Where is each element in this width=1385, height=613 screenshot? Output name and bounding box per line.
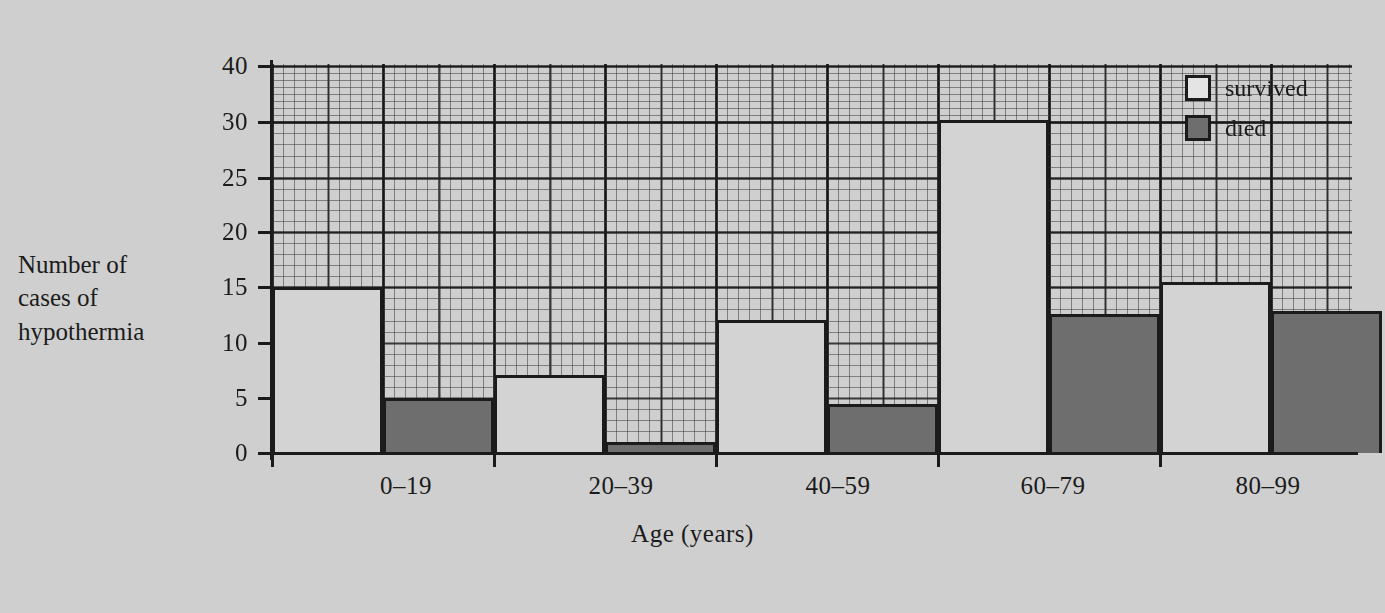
x-axis-title: Age (years) bbox=[0, 520, 1385, 548]
x-tick-label-40–59: 40–59 bbox=[738, 473, 938, 498]
y-tick-mark-30 bbox=[258, 121, 272, 124]
bar-60-79-died bbox=[1049, 314, 1160, 453]
x-tick-mark-1 bbox=[493, 453, 496, 467]
y-axis-title: Number of cases of hypothermia bbox=[18, 248, 208, 348]
bar-60-79-survived bbox=[938, 120, 1049, 453]
y-tick-label-40: 40 bbox=[188, 53, 248, 78]
y-tick-mark-15 bbox=[258, 286, 272, 289]
y-tick-label-0: 0 bbox=[188, 440, 248, 465]
y-tick-label-25: 25 bbox=[188, 165, 248, 190]
chart-figure: Number of cases of hypothermia 403025201… bbox=[0, 0, 1385, 613]
y-tick-label-15: 15 bbox=[188, 274, 248, 299]
x-tick-label-0–19: 0–19 bbox=[306, 473, 506, 498]
bar-40-59-survived bbox=[716, 320, 827, 453]
x-tick-mark-3 bbox=[937, 453, 940, 467]
y-tick-mark-25 bbox=[258, 177, 272, 180]
y-tick-label-20: 20 bbox=[188, 219, 248, 244]
bar-0-19-died bbox=[383, 398, 494, 453]
legend-swatch-died-icon bbox=[1185, 115, 1211, 141]
bar-20-39-survived bbox=[494, 375, 605, 453]
bar-40-59-died bbox=[827, 404, 938, 453]
y-tick-mark-10 bbox=[258, 342, 272, 345]
x-axis-line bbox=[268, 452, 1358, 455]
y-tick-label-10: 10 bbox=[188, 330, 248, 355]
legend: survived died bbox=[1185, 70, 1360, 150]
x-tick-mark-0 bbox=[271, 453, 274, 467]
bar-80-99-died bbox=[1271, 311, 1382, 453]
bar-0-19-survived bbox=[272, 287, 383, 453]
y-axis-title-line-2: cases of bbox=[18, 281, 208, 314]
y-tick-mark-5 bbox=[258, 397, 272, 400]
x-tick-mark-2 bbox=[715, 453, 718, 467]
legend-swatch-survived-icon bbox=[1185, 75, 1211, 101]
x-tick-mark-4 bbox=[1159, 453, 1162, 467]
y-tick-label-30: 30 bbox=[188, 109, 248, 134]
y-tick-mark-0 bbox=[258, 452, 272, 455]
y-axis-line bbox=[270, 60, 273, 460]
y-tick-label-5: 5 bbox=[188, 385, 248, 410]
bar-80-79-survived bbox=[1160, 282, 1271, 453]
x-tick-label-60–79: 60–79 bbox=[953, 473, 1153, 498]
x-tick-label-80–99: 80–99 bbox=[1168, 473, 1368, 498]
y-tick-mark-40 bbox=[258, 65, 272, 68]
y-axis-title-line-3: hypothermia bbox=[18, 315, 208, 348]
y-axis-title-line-1: Number of bbox=[18, 248, 208, 281]
x-tick-label-20–39: 20–39 bbox=[521, 473, 721, 498]
legend-item-survived: survived bbox=[1185, 70, 1360, 106]
legend-item-died: died bbox=[1185, 110, 1360, 146]
legend-label-survived: survived bbox=[1225, 75, 1308, 102]
legend-label-died: died bbox=[1225, 115, 1266, 142]
y-tick-mark-20 bbox=[258, 231, 272, 234]
